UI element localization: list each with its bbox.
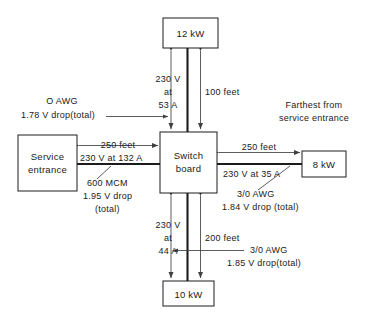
left-voltage: 230 V at 132 A — [80, 153, 143, 163]
left-conductor-size: 600 MCM — [87, 178, 128, 188]
switchboard-label-line1: Switch — [174, 150, 203, 161]
right-voltage-drop: 1.84 V drop (total) — [222, 202, 299, 212]
load-12kw-label: 12 kW — [176, 28, 204, 39]
top-branch-annotations: 230 V at 53 A 100 feet — [156, 74, 240, 110]
bottom-branch-annotations: 230 V at 44 A 200 feet 3/0 AWG 1.85 V dr… — [156, 220, 301, 268]
load-8kw-label: 8 kW — [313, 159, 336, 170]
load-10kw-label: 10 kW — [174, 289, 202, 300]
load-8kw-box[interactable]: 8 kW — [302, 151, 346, 177]
top-distance: 100 feet — [205, 87, 240, 97]
service-entrance-rect — [18, 135, 77, 191]
right-distance: 250 feet — [242, 142, 277, 152]
top-conductor-annotation: O AWG 1.78 V drop(total) — [21, 96, 95, 120]
bottom-distance: 200 feet — [205, 233, 240, 243]
farthest-note-line2: service entrance — [279, 113, 349, 123]
one-line-diagram: 12 kW Service entrance Switch board 8 kW… — [0, 0, 379, 324]
top-voltage-line1: 230 V — [156, 74, 181, 84]
switchboard-box[interactable]: Switch board — [160, 132, 217, 193]
top-voltage-line2: at — [164, 87, 172, 97]
service-entrance-label-line2: entrance — [28, 164, 67, 175]
left-voltage-drop-line2: (total) — [95, 204, 120, 214]
bottom-voltage-drop: 1.85 V drop(total) — [227, 258, 301, 268]
farthest-note: Farthest from service entrance — [279, 100, 349, 123]
bottom-voltage-line3: 44 A — [158, 246, 177, 256]
bottom-voltage-line2: at — [164, 233, 172, 243]
load-12kw-box[interactable]: 12 kW — [163, 18, 218, 48]
bottom-conductor-size: 3/0 AWG — [250, 245, 287, 255]
switchboard-label-line2: board — [176, 163, 202, 174]
left-branch-annotations: 250 feet 230 V at 132 A 600 MCM 1.95 V d… — [80, 140, 143, 214]
bottom-voltage-line1: 230 V — [156, 220, 181, 230]
service-entrance-box[interactable]: Service entrance — [18, 135, 77, 191]
service-entrance-label-line1: Service — [31, 151, 64, 162]
diagram-canvas: 12 kW Service entrance Switch board 8 kW… — [0, 0, 379, 324]
top-voltage-drop: 1.78 V drop(total) — [21, 110, 95, 120]
right-voltage: 230 V at 35 A — [223, 169, 280, 179]
load-10kw-box[interactable]: 10 kW — [163, 281, 214, 306]
left-voltage-drop-line1: 1.95 V drop — [83, 191, 132, 201]
top-voltage-line3: 53 A — [158, 100, 177, 110]
farthest-note-line1: Farthest from — [286, 100, 343, 110]
top-conductor-size: O AWG — [46, 96, 77, 106]
left-distance: 250 feet — [101, 140, 136, 150]
right-conductor-size: 3/0 AWG — [237, 189, 274, 199]
